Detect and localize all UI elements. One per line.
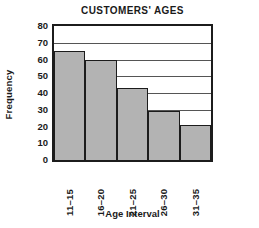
x-axis-tick-16–20: 16–20 bbox=[85, 164, 116, 208]
y-axis-title-label: Frequency bbox=[4, 69, 15, 119]
y-axis-tick-labels: 01020304050607080 bbox=[20, 24, 48, 162]
y-axis-tick-70: 70 bbox=[20, 38, 48, 48]
x-axis-tick-labels: 11–1516–2021–2526–3031–35 bbox=[52, 164, 213, 208]
plot-inner bbox=[54, 26, 211, 160]
x-axis-tick-11–15: 11–15 bbox=[54, 164, 85, 208]
y-axis-tick-10: 10 bbox=[20, 139, 48, 149]
y-axis-tick-30: 30 bbox=[20, 105, 48, 115]
y-axis-tick-20: 20 bbox=[20, 122, 48, 132]
bar-21–25 bbox=[117, 88, 148, 160]
bar-16–20 bbox=[85, 60, 116, 161]
y-axis-tick-50: 50 bbox=[20, 72, 48, 82]
x-axis-tick-21–25: 21–25 bbox=[117, 164, 148, 208]
x-axis-tick-26–30: 26–30 bbox=[148, 164, 179, 208]
chart-title: CUSTOMERS' AGES bbox=[52, 5, 213, 16]
y-axis-tick-60: 60 bbox=[20, 55, 48, 65]
y-axis-tick-40: 40 bbox=[20, 88, 48, 98]
bar-11–15 bbox=[54, 51, 85, 160]
bar-26–30 bbox=[148, 111, 179, 160]
y-axis-tick-80: 80 bbox=[20, 21, 48, 31]
bars-layer bbox=[54, 26, 211, 160]
y-axis-title: Frequency bbox=[2, 40, 16, 148]
x-axis-title: Age Interval bbox=[52, 208, 213, 219]
bar-31–35 bbox=[180, 125, 211, 160]
plot-area bbox=[52, 24, 213, 162]
x-axis-tick-31–35: 31–35 bbox=[180, 164, 211, 208]
customers-ages-bar-chart: CUSTOMERS' AGES Frequency 01020304050607… bbox=[0, 0, 259, 228]
y-axis-tick-0: 0 bbox=[20, 155, 48, 165]
